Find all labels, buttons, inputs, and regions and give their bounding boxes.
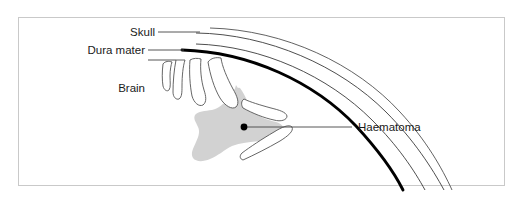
label-skull: Skull bbox=[130, 26, 155, 38]
anatomy-diagram: Skull Dura mater Brain Haematoma bbox=[0, 0, 524, 212]
label-haematoma: Haematoma bbox=[358, 121, 421, 133]
label-dura-mater: Dura mater bbox=[87, 44, 145, 56]
haematoma-point bbox=[241, 124, 248, 131]
label-brain: Brain bbox=[118, 82, 145, 94]
figure-root: Skull Dura mater Brain Haematoma bbox=[0, 0, 524, 212]
